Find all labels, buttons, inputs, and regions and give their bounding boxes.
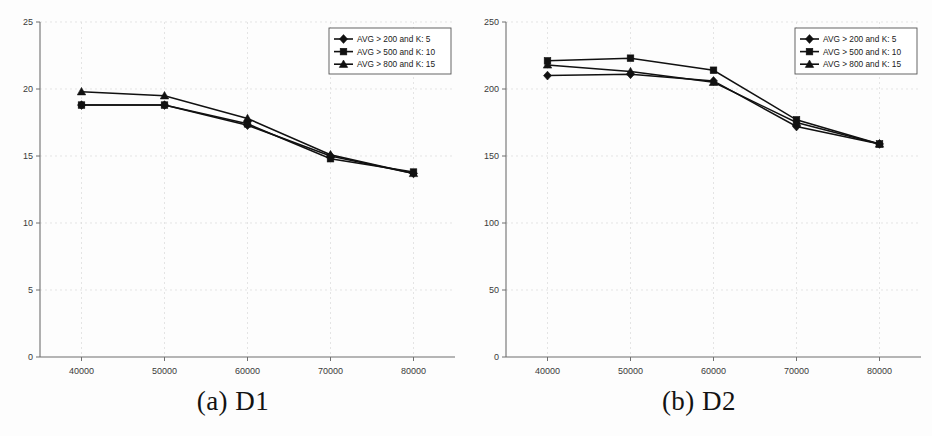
x-axis-tick-label: 80000 (401, 366, 426, 376)
data-point-s2-x2 (627, 55, 634, 62)
data-point-s2-x2 (161, 102, 168, 109)
legend-label-2: AVG > 500 and K: 10 (357, 47, 435, 57)
chart-svg-d2: 0501001502002504000050000600007000080000… (466, 0, 932, 396)
y-axis-tick-label: 15 (23, 151, 33, 161)
y-axis-tick-label: 5 (28, 285, 33, 295)
data-point-s1-x1 (544, 71, 552, 80)
legend-label-3: AVG > 800 and K: 15 (357, 59, 435, 69)
y-axis-tick-label: 10 (23, 218, 33, 228)
legend-label-1: AVG > 200 and K: 5 (357, 34, 431, 44)
y-axis-tick-label: 0 (28, 352, 33, 362)
legend-label-2: AVG > 500 and K: 10 (823, 47, 901, 57)
y-axis-tick-label: 150 (484, 151, 499, 161)
data-point-s2-x1 (78, 102, 85, 109)
x-axis-tick-label: 50000 (618, 366, 643, 376)
data-point-s2-x3 (710, 67, 717, 74)
chart-panel-d1: 05101520254000050000600007000080000AVG >… (0, 0, 466, 436)
chart-panel-d2: 0501001502002504000050000600007000080000… (466, 0, 932, 436)
legend-label-1: AVG > 200 and K: 5 (823, 34, 897, 44)
legend-marker-square-icon (340, 48, 347, 55)
x-axis-tick-label: 60000 (235, 366, 260, 376)
chart-caption-d2: (b) D2 (466, 386, 932, 417)
y-axis-tick-label: 20 (23, 84, 33, 94)
chart-svg-d1: 05101520254000050000600007000080000AVG >… (0, 0, 466, 396)
figure-two-line-charts: 05101520254000050000600007000080000AVG >… (0, 0, 932, 436)
y-axis-tick-label: 100 (484, 218, 499, 228)
y-axis-tick-label: 200 (484, 84, 499, 94)
y-axis-tick-label: 25 (23, 17, 33, 27)
chart-caption-d1: (a) D1 (0, 386, 466, 417)
y-axis-tick-label: 0 (494, 352, 499, 362)
x-axis-tick-label: 70000 (784, 366, 809, 376)
x-axis-tick-label: 60000 (701, 366, 726, 376)
y-axis-tick-label: 250 (484, 17, 499, 27)
x-axis-tick-label: 40000 (69, 366, 94, 376)
y-axis-tick-label: 50 (489, 285, 499, 295)
legend-label-3: AVG > 800 and K: 15 (823, 59, 901, 69)
legend-marker-square-icon (806, 48, 813, 55)
x-axis-tick-label: 50000 (152, 366, 177, 376)
x-axis-tick-label: 80000 (867, 366, 892, 376)
x-axis-tick-label: 70000 (318, 366, 343, 376)
x-axis-tick-label: 40000 (535, 366, 560, 376)
